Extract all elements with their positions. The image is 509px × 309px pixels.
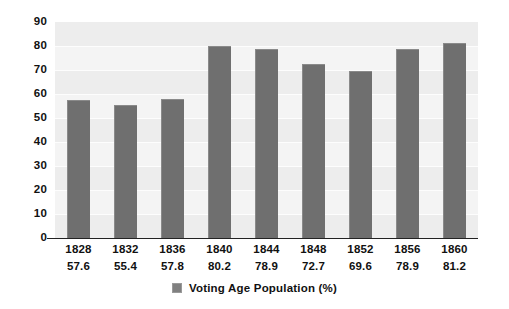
y-tick-label: 40 [0,136,47,148]
y-tick-label: 20 [0,184,47,196]
bar-1840[interactable] [208,46,231,238]
x-tick-year: 1860 [427,241,483,258]
x-axis-line [47,238,478,239]
bar-1836[interactable] [161,99,184,238]
y-tick-label: 0 [0,232,47,244]
legend-label: Voting Age Population (%) [189,282,337,294]
y-tick-label: 10 [0,208,47,220]
bar-1832[interactable] [114,105,137,238]
y-axis: 90 80 70 60 50 40 30 20 10 0 [0,22,47,238]
y-tick-label: 50 [0,112,47,124]
y-tick-label: 70 [0,64,47,76]
bars-layer [55,22,478,238]
chart-legend: Voting Age Population (%) [0,282,509,294]
x-tick-value: 81.2 [427,258,483,275]
bar-1828[interactable] [67,100,90,238]
x-label-group: 1860 81.2 [427,241,483,275]
y-tick-label: 90 [0,16,47,28]
bar-chart: 90 80 70 60 50 40 30 20 10 0 1828 57.6 1… [0,0,509,309]
bar-1860[interactable] [443,43,466,238]
x-axis: 1828 57.6 1832 55.4 1836 57.8 1840 80.2 … [55,241,478,279]
bar-1848[interactable] [302,64,325,238]
bar-1844[interactable] [255,49,278,238]
legend-swatch-icon [172,283,182,293]
y-tick-label: 30 [0,160,47,172]
bar-1856[interactable] [396,49,419,238]
y-tick-label: 60 [0,88,47,100]
y-tick-label: 80 [0,40,47,52]
bar-1852[interactable] [349,71,372,238]
